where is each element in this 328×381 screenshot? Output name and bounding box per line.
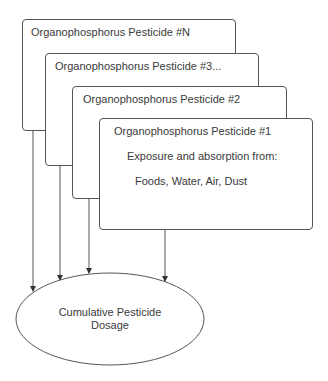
box-title: Organophosphorus Pesticide #3...	[55, 60, 221, 72]
dosage-label: Cumulative Pesticide Dosage	[16, 306, 204, 332]
dosage-label-line2: Dosage	[16, 319, 204, 332]
sources-label: Foods, Water, Air, Dust	[135, 175, 247, 187]
box-title: Organophosphorus Pesticide #2	[83, 93, 240, 105]
exposure-label: Exposure and absorption from:	[127, 150, 277, 162]
pesticide-box-1: Organophosphorus Pesticide #1 Exposure a…	[99, 118, 313, 230]
dosage-label-line1: Cumulative Pesticide	[16, 306, 204, 319]
box-title: Organophosphorus Pesticide #1	[114, 125, 271, 137]
box-title: Organophosphorus Pesticide #N	[31, 26, 190, 38]
